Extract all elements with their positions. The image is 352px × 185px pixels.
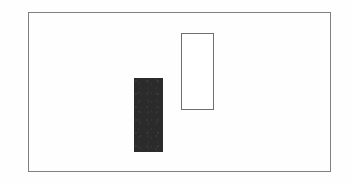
figure-canvas [0, 0, 352, 185]
outer-frame-border [28, 12, 331, 172]
outlined-white-rectangle [181, 33, 214, 110]
filled-dark-rectangle [134, 78, 163, 152]
